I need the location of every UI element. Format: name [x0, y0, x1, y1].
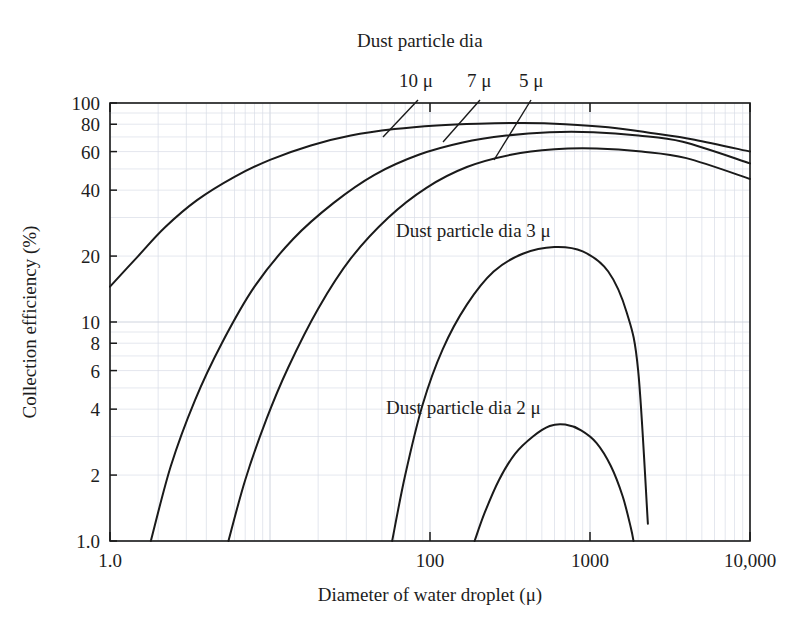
y-tick-label: 6 — [91, 361, 101, 382]
collection-efficiency-chart: 1.0100100010,000 1.024681020406080100 Du… — [0, 0, 810, 625]
label-10u: 10 μ — [399, 70, 433, 91]
y-tick-label: 10 — [81, 312, 100, 333]
y-tick-label: 2 — [91, 465, 101, 486]
label-5u: 5 μ — [519, 70, 543, 91]
x-axis-title: Diameter of water droplet (μ) — [318, 584, 542, 606]
label-7u: 7 μ — [467, 70, 491, 91]
y-tick-label: 60 — [81, 142, 100, 163]
label-3u: Dust particle dia 3 μ — [396, 220, 551, 241]
y-tick-label: 40 — [81, 180, 100, 201]
dust-particle-dia-header: Dust particle dia — [357, 30, 483, 51]
x-tick-label: 1.0 — [98, 550, 122, 571]
label-2u: Dust particle dia 2 μ — [386, 397, 541, 418]
chart-figure: 1.0100100010,000 1.024681020406080100 Du… — [0, 0, 810, 625]
y-tick-label: 4 — [91, 399, 101, 420]
y-tick-label: 80 — [81, 114, 100, 135]
y-tick-label: 1.0 — [76, 531, 100, 552]
x-tick-label: 10,000 — [724, 550, 776, 571]
y-tick-label: 20 — [81, 246, 100, 267]
x-tick-label: 1000 — [571, 550, 609, 571]
y-tick-label: 8 — [91, 333, 101, 354]
grid-layer — [110, 103, 750, 541]
y-tick-label: 100 — [72, 93, 101, 114]
x-tick-label: 100 — [416, 550, 445, 571]
y-axis-title: Collection efficiency (%) — [19, 226, 41, 419]
